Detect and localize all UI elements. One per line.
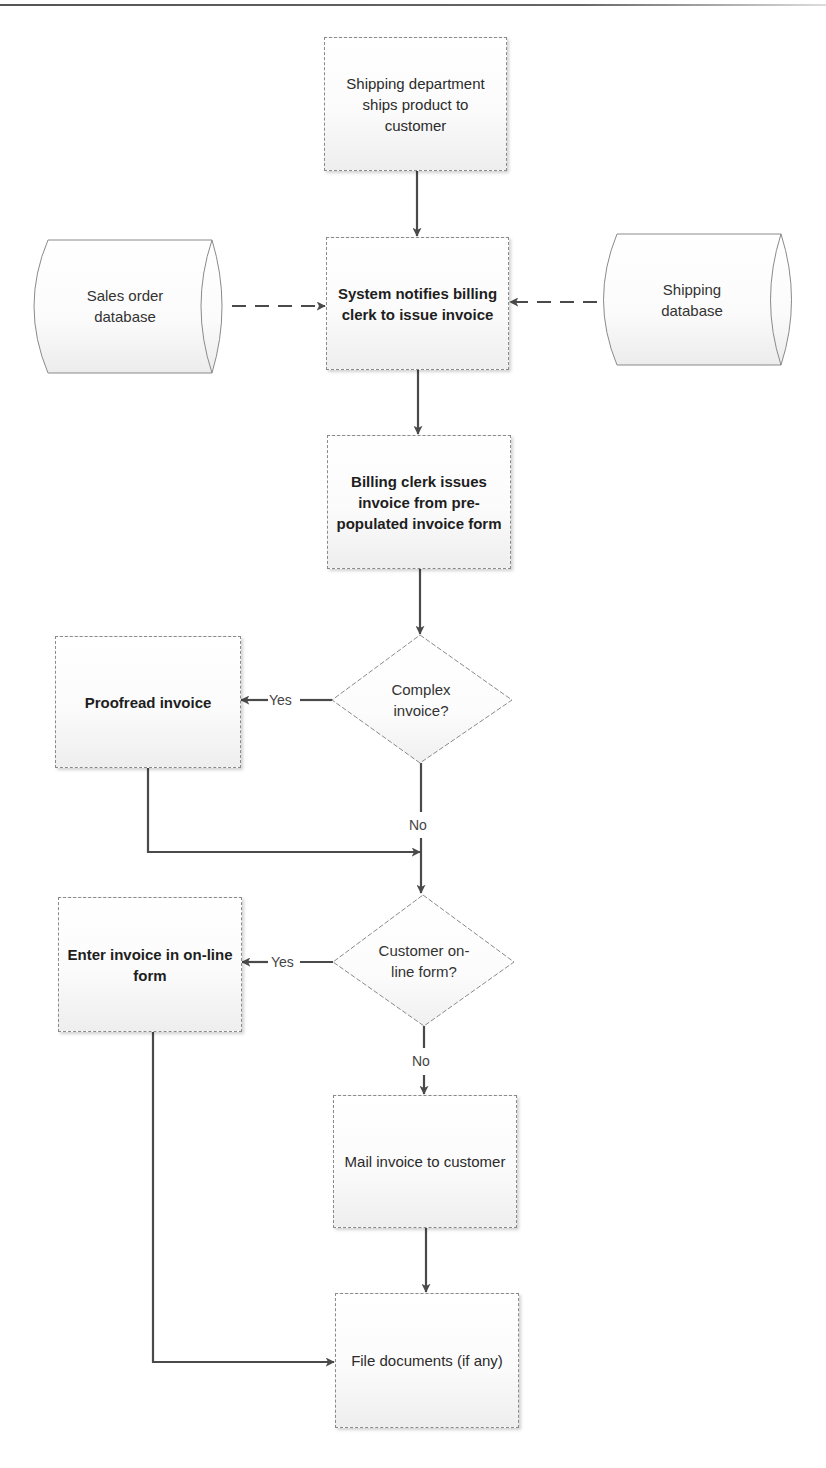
edge-label-complex-yes: Yes [268, 692, 293, 708]
node-label: System notifies billing clerk to issue i… [335, 283, 500, 325]
node-label: Sales order database [70, 285, 180, 327]
shipping-database-label: Shipping database [612, 274, 772, 326]
node-label: Proofread invoice [85, 692, 212, 713]
edge-label-online-no: No [411, 1053, 431, 1069]
node-shipping-ships-product: Shipping department ships product to cus… [324, 37, 507, 171]
node-proofread-invoice: Proofread invoice [55, 636, 241, 768]
node-label: Customer on-line form? [370, 940, 478, 982]
edge-label-complex-no: No [408, 817, 428, 833]
flowchart-canvas: Shipping department ships product to cus… [0, 0, 826, 1468]
node-label: Shipping department ships product to cus… [333, 73, 498, 136]
node-system-notifies-clerk: System notifies billing clerk to issue i… [326, 237, 509, 370]
node-label: File documents (if any) [351, 1350, 503, 1371]
node-mail-invoice: Mail invoice to customer [333, 1095, 517, 1228]
node-label: Mail invoice to customer [345, 1151, 506, 1172]
node-label: Shipping database [647, 279, 737, 321]
node-label: Complex invoice? [381, 679, 461, 721]
node-enter-online-form: Enter invoice in on-line form [58, 897, 242, 1032]
node-label: Billing clerk issues invoice from pre-po… [336, 471, 502, 534]
sales-order-database-label: Sales order database [45, 280, 205, 332]
node-label: Enter invoice in on-line form [67, 944, 233, 986]
node-clerk-issues-invoice: Billing clerk issues invoice from pre-po… [327, 435, 511, 569]
complex-invoice-label: Complex invoice? [362, 676, 480, 724]
edge-enter-to-file [153, 1031, 334, 1362]
node-file-documents: File documents (if any) [335, 1293, 519, 1428]
edge-proofread-to-merge [148, 767, 420, 852]
customer-online-form-label: Customer on-line form? [362, 937, 486, 985]
edge-label-online-yes: Yes [270, 954, 295, 970]
